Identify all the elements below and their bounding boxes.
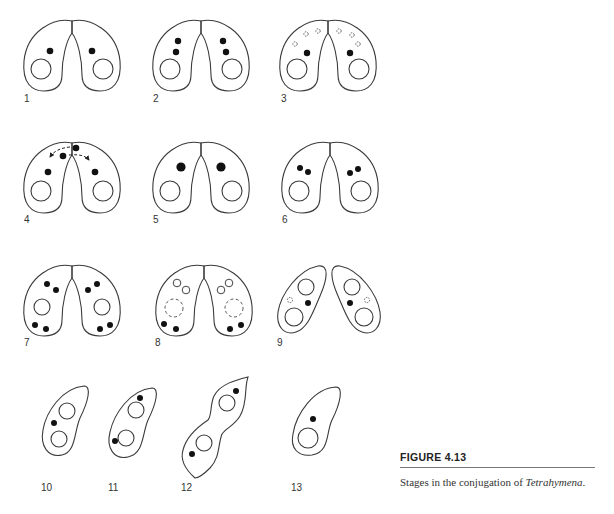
macronucleus [222, 181, 242, 201]
macronucleus [160, 59, 180, 79]
micronucleus [112, 438, 118, 444]
macronucleus [285, 308, 303, 326]
macronucleus [31, 59, 51, 79]
stage-8 [156, 265, 253, 336]
micronucleus [233, 388, 239, 394]
stage-10 [42, 386, 88, 455]
figure-caption: Stages in the conjugation of Tetrahymena… [400, 476, 596, 488]
stage-label-11: 11 [108, 482, 119, 493]
degenerating-nucleus [316, 29, 320, 33]
micronucleus [223, 49, 229, 55]
macronucleus [289, 181, 309, 201]
macronucleus [298, 428, 318, 448]
developing-macronucleus [182, 286, 190, 294]
macronucleus [287, 59, 307, 79]
micronucleus [305, 300, 311, 306]
micronucleus [305, 169, 311, 175]
cell-outline [109, 388, 156, 457]
macronucleus [51, 431, 67, 447]
migratory-pronucleus [60, 153, 67, 160]
micronucleus [45, 169, 52, 176]
macronucleus [349, 59, 369, 79]
micronucleus [97, 326, 103, 332]
developing-macronucleus [225, 279, 233, 287]
degenerating-nucleus [293, 42, 297, 46]
stage-label-1: 1 [24, 93, 30, 104]
macronucleus [118, 430, 134, 446]
macronucleus [344, 279, 360, 295]
stage-5 [153, 142, 250, 213]
micronucleus [94, 281, 100, 287]
cell-outline-right [332, 266, 380, 333]
developing-macronucleus [217, 286, 225, 294]
micronucleus [355, 166, 361, 172]
macronucleus [222, 59, 242, 79]
micronucleus [297, 165, 303, 171]
migratory-pronucleus [73, 145, 80, 152]
macronucleus [34, 299, 50, 315]
micronucleus [238, 322, 244, 328]
cell-outline [42, 386, 88, 455]
macronucleus [196, 435, 212, 451]
micronucleus [347, 170, 353, 176]
macronucleus [351, 181, 371, 201]
micronucleus [310, 416, 316, 422]
stage-11 [109, 388, 156, 457]
developing-macronucleus [173, 279, 181, 287]
caption-prefix: Stages in the conjugation of [400, 476, 526, 488]
stage-13 [292, 387, 340, 455]
cell-outline-left [278, 266, 326, 333]
stage-3 [280, 20, 377, 91]
stage-12 [182, 377, 248, 478]
micronucleus [161, 321, 167, 327]
micronucleus [347, 50, 353, 56]
micronucleus [51, 420, 57, 426]
stage-6 [282, 142, 379, 213]
micronucleus [175, 38, 181, 44]
macronucleus [59, 403, 75, 419]
caption-rule [400, 467, 595, 468]
stage-label-3: 3 [281, 93, 287, 104]
micronucleus [32, 322, 38, 328]
degenerating-nucleus [364, 297, 369, 302]
stage-4 [24, 142, 121, 213]
stage-label-7: 7 [24, 337, 30, 348]
stage-label-10: 10 [41, 482, 53, 493]
macronucleus [298, 279, 314, 295]
degenerating-nucleus [337, 29, 341, 33]
stage-label-2: 2 [153, 93, 159, 104]
stage-label-13: 13 [291, 482, 303, 493]
macronucleus [160, 181, 180, 201]
micronucleus [220, 38, 226, 44]
degenerating-macronucleus [165, 299, 183, 317]
cell-outline-left [24, 20, 72, 91]
micronucleus [89, 48, 96, 55]
micronucleus [47, 48, 54, 55]
micronucleus [107, 322, 113, 328]
caption-organism: Tetrahymena [526, 476, 583, 488]
micronucleus [53, 287, 59, 293]
zygotic-nucleus [176, 162, 185, 171]
cell-outline [292, 387, 340, 455]
zygotic-nucleus [216, 162, 225, 171]
stage-2 [153, 20, 250, 91]
degenerating-nucleus [350, 33, 354, 37]
stage-1 [24, 20, 121, 91]
micronucleus [189, 451, 195, 457]
micronucleus [173, 49, 179, 55]
macronucleus [355, 308, 373, 326]
caption-suffix: . [583, 476, 586, 488]
figure-caption-block: FIGURE 4.13 Stages in the conjugation of… [400, 451, 596, 488]
micronucleus [137, 395, 143, 401]
micronucleus [43, 326, 49, 332]
stage-label-6: 6 [282, 214, 288, 225]
stage-9 [278, 266, 381, 333]
micronucleus [227, 326, 233, 332]
micronucleus [92, 169, 99, 176]
degenerating-nucleus [287, 297, 292, 302]
stage-label-9: 9 [277, 337, 283, 348]
stage-7 [24, 265, 121, 336]
micronucleus [173, 326, 179, 332]
figure-title: FIGURE 4.13 [400, 451, 596, 463]
micronucleus [44, 281, 50, 287]
